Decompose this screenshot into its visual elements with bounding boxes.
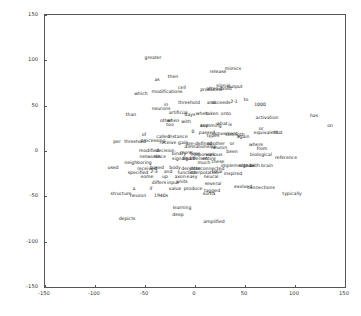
word-label: units bbox=[176, 178, 187, 183]
word-label: 1940s bbox=[154, 192, 168, 197]
word-label: taken bbox=[206, 110, 219, 115]
y-tick bbox=[44, 287, 47, 288]
word-label: modifications bbox=[152, 89, 183, 94]
word-label: with bbox=[181, 119, 191, 124]
word-label: 2-3 bbox=[150, 168, 158, 173]
word-label: biological bbox=[250, 151, 272, 156]
x-tick bbox=[295, 285, 296, 288]
plot-area: greatermimicsreleasethenasoutputsignalce… bbox=[45, 15, 345, 287]
word-label: as bbox=[154, 77, 159, 82]
word-label: 0 bbox=[192, 129, 195, 134]
word-label: than bbox=[126, 111, 136, 116]
y-tick-label: 0 bbox=[12, 147, 38, 153]
word-label: and bbox=[207, 100, 216, 105]
word-label: learning bbox=[173, 205, 192, 210]
word-label: connections bbox=[247, 185, 275, 190]
x-tick-label: -50 bbox=[140, 290, 148, 296]
word-label: types bbox=[207, 132, 220, 137]
word-label: neuron bbox=[130, 193, 146, 198]
word-label: days bbox=[185, 111, 196, 116]
word-label: has bbox=[310, 112, 318, 117]
word-label: per bbox=[113, 139, 121, 144]
y-tick bbox=[44, 151, 47, 152]
y-tick bbox=[44, 60, 47, 61]
word-label: used bbox=[107, 165, 118, 170]
y-tick bbox=[44, 242, 47, 243]
x-tick-label: 100 bbox=[289, 290, 299, 296]
word-label: mimics bbox=[225, 65, 241, 70]
word-label: been bbox=[226, 149, 237, 154]
y-tick-label: -100 bbox=[12, 238, 38, 244]
x-tick-label: 150 bbox=[339, 290, 349, 296]
word-label: receive bbox=[160, 139, 177, 144]
word-label: easy bbox=[187, 174, 198, 179]
plot-frame: greatermimicsreleasethenasoutputsignalce… bbox=[44, 14, 346, 288]
word-label: neural bbox=[204, 174, 219, 179]
x-tick bbox=[95, 285, 96, 288]
word-label: brain bbox=[261, 162, 273, 167]
word-label: differs bbox=[152, 179, 166, 184]
word-label: a bbox=[133, 186, 136, 191]
word-label: threshold bbox=[178, 100, 200, 105]
y-tick-label: -150 bbox=[12, 283, 38, 289]
y-tick bbox=[44, 15, 47, 16]
word-label: value bbox=[169, 186, 182, 191]
x-tick bbox=[345, 285, 346, 288]
x-tick bbox=[145, 285, 146, 288]
word-label: release bbox=[210, 69, 227, 74]
word-label: depicts bbox=[119, 216, 136, 221]
word-label: activation bbox=[256, 114, 279, 119]
word-label: reference bbox=[275, 155, 297, 160]
y-tick bbox=[44, 196, 47, 197]
word-label: again bbox=[237, 134, 250, 139]
word-label: typically bbox=[282, 190, 301, 195]
word-label: inspired bbox=[224, 170, 242, 175]
word-label: produced bbox=[200, 87, 222, 92]
x-tick-label: 0 bbox=[192, 290, 195, 296]
word-label: much bbox=[198, 159, 211, 164]
word-label: neighboring bbox=[124, 159, 152, 164]
scatter-plot-figure: greatermimicsreleasethenasoutputsignalce… bbox=[0, 0, 361, 316]
word-label: if bbox=[150, 186, 153, 191]
x-tick-label: 50 bbox=[241, 290, 248, 296]
word-label: deep bbox=[172, 212, 183, 217]
x-tick bbox=[245, 285, 246, 288]
x-tick bbox=[195, 285, 196, 288]
word-label: then bbox=[168, 73, 178, 78]
word-label: instance bbox=[168, 134, 187, 139]
word-label: up bbox=[162, 174, 168, 179]
word-label: of bbox=[142, 131, 146, 136]
word-label: or bbox=[230, 140, 235, 145]
word-label: what bbox=[216, 120, 227, 125]
word-label: with bbox=[250, 162, 260, 167]
word-label: soma bbox=[203, 190, 216, 195]
word-label: 2-1 bbox=[230, 99, 238, 104]
word-label: neuron bbox=[211, 145, 227, 150]
y-tick-label: -50 bbox=[12, 192, 38, 198]
word-label: to bbox=[244, 97, 249, 102]
x-tick-label: -100 bbox=[88, 290, 100, 296]
word-label: greater bbox=[145, 54, 162, 59]
y-tick bbox=[44, 106, 47, 107]
word-label: neurons bbox=[152, 106, 171, 111]
word-label: that bbox=[273, 129, 282, 134]
word-label: onto bbox=[221, 110, 231, 115]
word-label: amplified bbox=[203, 218, 224, 223]
y-tick-label: 50 bbox=[12, 102, 38, 108]
word-label: from bbox=[257, 146, 268, 151]
word-label: on bbox=[327, 122, 333, 127]
word-label: 1000 bbox=[254, 101, 266, 106]
word-label: and bbox=[164, 168, 173, 173]
word-label: too bbox=[166, 121, 173, 126]
word-label: which bbox=[134, 90, 147, 95]
y-tick-label: 150 bbox=[12, 11, 38, 17]
word-label: structure bbox=[111, 190, 132, 195]
word-label: is bbox=[228, 121, 232, 126]
word-label: since bbox=[154, 154, 166, 159]
word-label: produce bbox=[184, 186, 203, 191]
y-tick-label: 100 bbox=[12, 56, 38, 62]
word-label: several bbox=[205, 180, 222, 185]
x-tick-label: -150 bbox=[38, 290, 50, 296]
word-label: some bbox=[141, 174, 154, 179]
word-label: total bbox=[212, 168, 223, 173]
